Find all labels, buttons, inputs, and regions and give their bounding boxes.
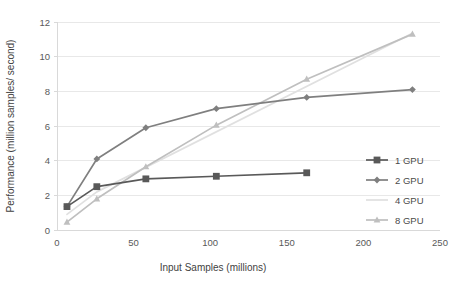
y-tick-label: 4 xyxy=(45,155,50,166)
legend-label: 2 GPU xyxy=(395,175,424,186)
y-tick-label: 0 xyxy=(45,225,50,236)
x-tick-label: 200 xyxy=(355,237,371,248)
gridlines xyxy=(57,22,440,230)
data-point-marker xyxy=(93,183,100,190)
chart-canvas: 024681012 050100150200250 1 GPU2 GPU4 GP… xyxy=(0,0,470,283)
data-point-marker xyxy=(64,203,71,210)
data-point-marker xyxy=(213,105,220,112)
legend-label: 4 GPU xyxy=(395,195,424,206)
series-4-gpu xyxy=(67,33,412,214)
data-point-marker xyxy=(303,169,310,176)
legend-item-8-gpu[interactable]: 8 GPU xyxy=(366,215,424,226)
data-point-marker xyxy=(93,195,100,201)
x-axis-tick-labels: 050100150200250 xyxy=(54,237,448,248)
series-line xyxy=(67,90,412,207)
series-line xyxy=(67,33,412,214)
legend-item-4-gpu[interactable]: 4 GPU xyxy=(366,195,424,206)
y-axis-tick-labels: 024681012 xyxy=(39,17,50,236)
y-tick-label: 6 xyxy=(45,121,50,132)
y-tick-label: 12 xyxy=(39,17,50,28)
series-line xyxy=(67,34,412,222)
line-chart: 024681012 050100150200250 1 GPU2 GPU4 GP… xyxy=(0,0,470,283)
chart-legend: 1 GPU2 GPU4 GPU8 GPU xyxy=(366,155,424,226)
legend-item-1-gpu[interactable]: 1 GPU xyxy=(366,155,424,166)
data-point-marker xyxy=(213,173,220,180)
legend-swatch-marker xyxy=(374,157,381,164)
x-tick-label: 0 xyxy=(54,237,59,248)
y-tick-label: 8 xyxy=(45,86,50,97)
data-point-marker xyxy=(142,175,149,182)
data-point-marker xyxy=(409,86,416,93)
legend-swatch-marker xyxy=(374,177,381,184)
x-tick-label: 150 xyxy=(279,237,295,248)
y-tick-label: 10 xyxy=(39,51,50,62)
x-tick-label: 250 xyxy=(432,237,448,248)
y-axis-title: Performance (million samples/ second) xyxy=(5,40,16,213)
legend-label: 8 GPU xyxy=(395,215,424,226)
y-tick-label: 2 xyxy=(45,190,50,201)
x-axis-title: Input Samples (millions) xyxy=(160,262,267,273)
x-tick-label: 50 xyxy=(128,237,139,248)
series-2-gpu xyxy=(64,86,416,210)
data-point-marker xyxy=(303,94,310,101)
legend-item-2-gpu[interactable]: 2 GPU xyxy=(366,175,424,186)
legend-label: 1 GPU xyxy=(395,155,424,166)
x-tick-label: 100 xyxy=(202,237,218,248)
